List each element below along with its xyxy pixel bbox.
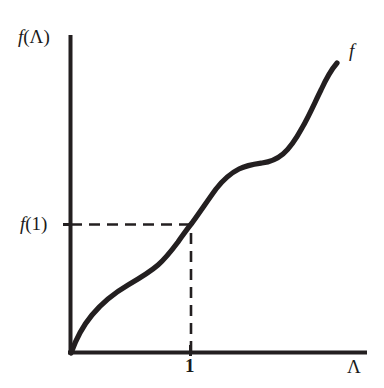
x-axis-label: Λ xyxy=(347,356,361,378)
x-axis-tick-label-1: 1 xyxy=(185,355,195,377)
curve-label: f xyxy=(349,40,354,62)
y-axis-tick-label-f1: f(1) xyxy=(20,213,47,235)
function-plot-figure xyxy=(0,0,384,388)
y-axis-label: f(Λ) xyxy=(18,26,50,48)
